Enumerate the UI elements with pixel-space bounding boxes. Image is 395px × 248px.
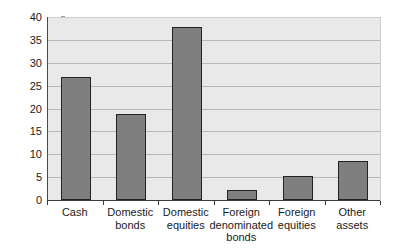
x-axis-tick-mark	[158, 201, 159, 205]
y-axis-tick-label: 35	[16, 34, 42, 46]
x-axis-category-label-line: Domestic	[163, 206, 209, 219]
y-axis-tick-label: 20	[16, 103, 42, 115]
y-axis-tick-label: 40	[16, 11, 42, 23]
bar	[283, 176, 313, 200]
y-axis-tick-label: 15	[16, 125, 42, 137]
x-axis-category-label: Foreignequities	[278, 206, 316, 231]
bar	[116, 114, 146, 200]
x-axis-category-label: Otherassets	[336, 206, 368, 231]
gridline	[48, 17, 381, 18]
gridline	[48, 63, 381, 64]
x-axis-category-label-line: equities	[163, 219, 209, 232]
x-axis-category-label: Domesticequities	[163, 206, 209, 231]
gridline	[48, 40, 381, 41]
gridline	[48, 131, 381, 132]
y-axis-tick-label: 10	[16, 148, 42, 160]
x-axis-category-label-line: equities	[278, 219, 316, 232]
gridline	[48, 177, 381, 178]
x-axis-category-label: Foreigndenominatedbonds	[209, 206, 273, 244]
x-axis-category-label: Domesticbonds	[107, 206, 153, 231]
x-axis: CashDomesticbondsDomesticequitiesForeign…	[47, 201, 381, 248]
plot-frame-right-edge	[380, 17, 381, 201]
x-axis-category-label-line: bonds	[107, 219, 153, 232]
gridline	[48, 109, 381, 110]
plot-area	[47, 17, 381, 201]
x-axis-tick-mark	[325, 201, 326, 205]
y-axis-tick-labels: 4035302520151050	[16, 17, 42, 200]
y-axis-tick-label: 5	[16, 171, 42, 183]
x-axis-tick-mark	[269, 201, 270, 205]
bar	[61, 77, 91, 200]
x-axis-tick-mark	[47, 201, 48, 205]
x-axis-tick-mark	[103, 201, 104, 205]
y-axis-tick-label: 0	[16, 194, 42, 206]
x-axis-category-label-line: Foreign	[278, 206, 316, 219]
x-axis-tick-mark	[380, 201, 381, 205]
x-axis-category-label-line: denominated	[209, 219, 273, 232]
gridline	[48, 86, 381, 87]
x-axis-category-label-line: assets	[336, 219, 368, 232]
x-axis-category-label-line: Other	[336, 206, 368, 219]
x-axis-category-label-line: Domestic	[107, 206, 153, 219]
bar	[338, 161, 368, 200]
bar	[172, 27, 202, 200]
x-axis-category-label-line: Cash	[62, 206, 88, 219]
bar	[227, 190, 257, 200]
gridline	[48, 154, 381, 155]
x-axis-tick-mark	[214, 201, 215, 205]
x-axis-category-label: Cash	[62, 206, 88, 219]
bar-chart-figure: Percent 4035302520151050 CashDomesticbon…	[0, 0, 395, 248]
x-axis-category-label-line: bonds	[209, 231, 273, 244]
y-axis-tick-label: 25	[16, 80, 42, 92]
x-axis-category-label-line: Foreign	[209, 206, 273, 219]
y-axis-tick-label: 30	[16, 57, 42, 69]
